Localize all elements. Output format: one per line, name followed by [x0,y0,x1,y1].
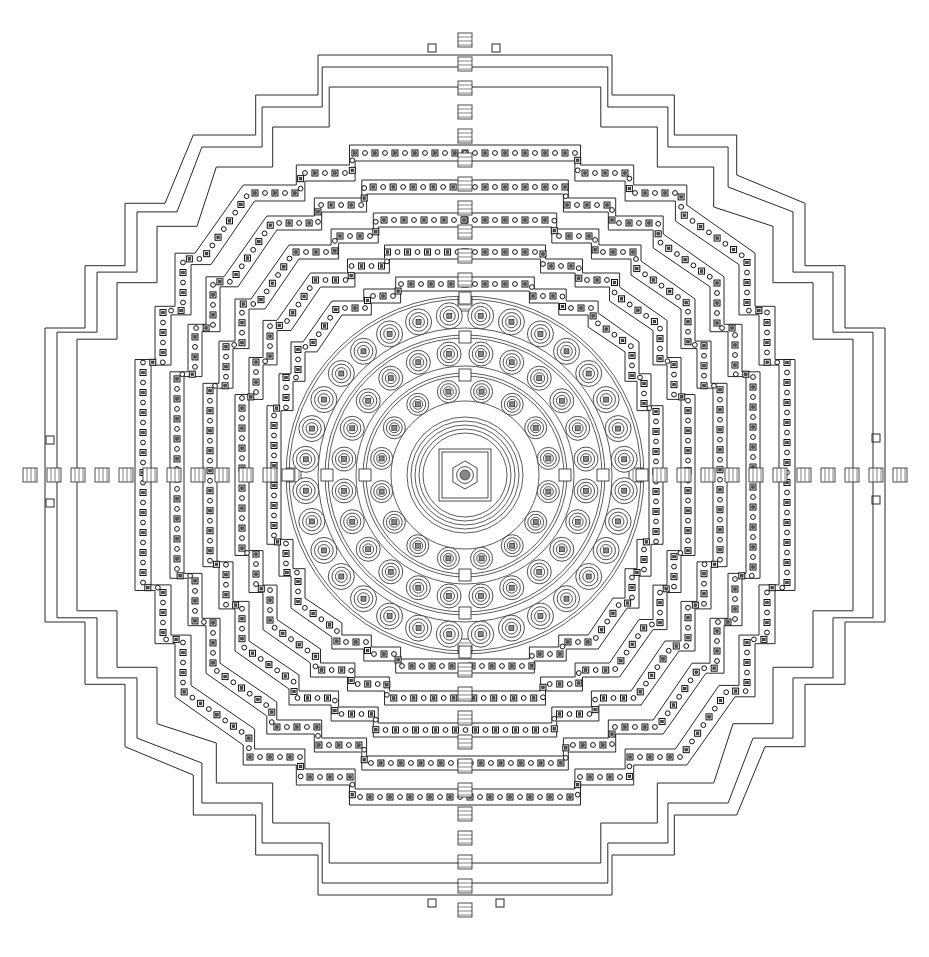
niche-circle [175,527,180,532]
niche-circle [498,795,503,800]
niche-buddha [661,720,664,723]
niche-buddha [636,267,639,270]
niche-circle [501,696,506,701]
niche-buddha [147,586,150,589]
niche-circle [647,406,652,411]
stupa-core [533,520,538,525]
niche-buddha [771,586,774,589]
niche-circle [633,191,638,196]
stupa-core [604,548,609,553]
niche-buddha [504,152,507,155]
niche-circle [240,456,245,461]
niche-buddha [409,796,412,799]
niche-circle [631,696,636,701]
niche-circle [612,290,617,295]
niche-buddha [366,649,369,652]
niche-buddha [531,665,534,668]
niche-circle [718,517,723,522]
stupa-core [538,331,543,336]
niche-circle [276,273,281,278]
stupa-core [309,426,314,431]
niche-circle [560,294,565,299]
perforated-stupa [566,510,590,534]
niche-circle [658,590,663,595]
niche-circle [751,455,756,460]
niche-circle [181,680,186,685]
niche-buddha [318,744,321,747]
niche-circle [327,743,332,748]
niche-buddha [175,638,178,641]
niche-buddha [567,641,570,644]
niche-circle [775,360,780,365]
niche-buddha [315,251,318,254]
niche-buddha [589,776,592,779]
niche-buddha [232,725,235,728]
niche-buddha [719,488,722,491]
niche-circle [272,513,277,518]
niche-buddha [474,729,477,732]
niche-circle [175,507,180,512]
niche-buddha [752,426,755,429]
niche-circle [277,221,282,226]
niche-buddha [234,604,237,607]
niche-circle [206,707,211,712]
niche-circle [751,375,756,380]
niche-circle [372,652,377,657]
niche-buddha [570,265,573,268]
niche-circle [702,373,707,378]
niche-circle [733,617,738,622]
niche-circle [208,478,213,483]
niche-buddha [566,204,569,207]
niche-circle [240,330,245,335]
niche-circle [473,218,478,223]
niche-buddha [354,307,357,310]
niche-buddha [673,363,676,366]
niche-circle [258,657,263,662]
niche-circle [627,302,632,307]
niche-buddha [212,622,215,625]
niche-buddha [494,729,497,732]
niche-buddha [219,281,222,284]
niche-circle [240,536,245,541]
niche-circle [493,185,498,190]
niche-buddha [687,489,690,492]
stupa-core [509,360,514,365]
niche-circle [316,332,321,337]
niche-buddha [703,572,706,575]
niche-circle [530,654,535,659]
terrace-gateway [559,469,571,481]
niche-buddha [274,192,277,195]
niche-circle [739,253,744,258]
perforated-stupa [501,535,523,557]
niche-buddha [606,204,609,207]
perforated-stupa [574,447,598,471]
niche-buddha [273,524,276,527]
niche-buddha [763,638,766,641]
terrace-gateway [459,646,471,658]
niche-buddha [350,679,353,682]
niche-circle [593,636,598,641]
niche-circle [553,151,558,156]
niche-buddha [297,348,300,351]
niche-circle [569,306,574,311]
stupa-core [533,425,538,430]
niche-buddha [298,643,301,646]
niche-circle [637,221,642,226]
niche-circle [254,582,259,587]
perforated-stupa [550,537,574,561]
niche-circle [211,323,216,328]
niche-buddha [350,204,353,207]
niche-buddha [653,320,656,323]
niche-circle [420,664,425,669]
niche-circle [240,416,245,421]
niche-circle [333,698,338,703]
niche-circle [610,742,615,747]
niche-buddha [716,237,719,240]
niche-circle [432,218,437,223]
niche-circle [141,580,146,585]
niche-buddha [746,261,749,264]
niche-buddha [176,558,179,561]
niche-circle [745,290,750,295]
niche-circle [500,664,505,669]
niche-circle [141,400,146,405]
